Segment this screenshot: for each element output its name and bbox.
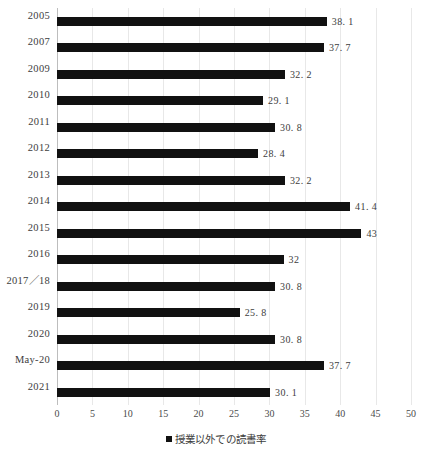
bar[interactable]	[57, 202, 350, 211]
bar-row[interactable]: 30. 1	[57, 379, 411, 405]
category-label: 2014	[0, 195, 50, 207]
bar-row[interactable]: 30. 8	[57, 273, 411, 299]
bar-row[interactable]: 37. 7	[57, 352, 411, 378]
x-tick-label: 0	[55, 408, 60, 420]
bar-row[interactable]: 28. 4	[57, 140, 411, 166]
bar-row[interactable]: 37. 7	[57, 34, 411, 60]
category-tick: 2017／18	[0, 273, 50, 299]
bar-value-label: 30. 8	[280, 118, 302, 137]
x-tick-label: 35	[300, 408, 310, 420]
category-tick: 2019	[0, 299, 50, 325]
legend-label: 授業以外での読書率	[175, 432, 267, 446]
category-label: 2015	[0, 222, 50, 234]
category-tick: 2015	[0, 220, 50, 246]
bar[interactable]	[57, 282, 275, 291]
category-label: 2011	[0, 116, 50, 128]
x-axis: 05101520253035404550	[57, 405, 411, 425]
bar-row[interactable]: 30. 8	[57, 326, 411, 352]
category-tick: 2014	[0, 193, 50, 219]
bar[interactable]	[57, 96, 263, 105]
bar-value-label: 28. 4	[263, 144, 285, 163]
bar-value-label: 38. 1	[332, 12, 354, 31]
category-tick: 2011	[0, 114, 50, 140]
category-tick: 2005	[0, 8, 50, 34]
bar-value-label: 37. 7	[329, 356, 351, 375]
bar-value-label: 32. 2	[290, 65, 312, 84]
bar-row[interactable]: 43	[57, 220, 411, 246]
bar[interactable]	[57, 335, 275, 344]
bar-value-label: 32	[289, 250, 300, 269]
category-tick: 2009	[0, 61, 50, 87]
category-label: 2012	[0, 142, 50, 154]
category-label: 2005	[0, 10, 50, 22]
bar-value-label: 32. 2	[290, 171, 312, 190]
category-label: 2009	[0, 63, 50, 75]
category-label: May-20	[0, 354, 50, 366]
bar-row[interactable]: 32. 2	[57, 61, 411, 87]
bar[interactable]	[57, 388, 270, 397]
bar-row[interactable]: 38. 1	[57, 8, 411, 34]
category-label: 2007	[0, 36, 50, 48]
bar[interactable]	[57, 123, 275, 132]
category-label: 2013	[0, 169, 50, 181]
category-label: 2019	[0, 301, 50, 313]
category-tick: 2012	[0, 140, 50, 166]
x-tick-label: 20	[194, 408, 204, 420]
category-tick: May-20	[0, 352, 50, 378]
x-tick-label: 50	[406, 408, 416, 420]
bar-row[interactable]: 30. 8	[57, 114, 411, 140]
chart-legend: 授業以外での読書率	[0, 432, 432, 446]
bar-value-label: 41. 4	[355, 197, 377, 216]
category-tick: 2016	[0, 246, 50, 272]
x-tick-label: 5	[90, 408, 95, 420]
plot-area: 38. 137. 732. 229. 130. 828. 432. 241. 4…	[57, 8, 411, 405]
bar-value-label: 30. 1	[275, 383, 297, 402]
bar-chart: 2005200720092010201120122013201420152016…	[0, 0, 432, 454]
legend-square-marker-icon	[166, 436, 172, 442]
category-label: 2016	[0, 248, 50, 260]
bar-row[interactable]: 29. 1	[57, 87, 411, 113]
category-label: 2017／18	[0, 275, 50, 287]
category-tick: 2010	[0, 87, 50, 113]
x-tick-label: 45	[371, 408, 381, 420]
x-tick-label: 25	[229, 408, 239, 420]
x-tick-label: 10	[123, 408, 133, 420]
category-label: 2020	[0, 328, 50, 340]
bar[interactable]	[57, 70, 285, 79]
x-tick-label: 40	[335, 408, 345, 420]
category-label: 2010	[0, 89, 50, 101]
bar-value-label: 25. 8	[245, 303, 267, 322]
bar-row[interactable]: 41. 4	[57, 193, 411, 219]
bar[interactable]	[57, 43, 324, 52]
bar-value-label: 29. 1	[268, 91, 290, 110]
bar-row[interactable]: 25. 8	[57, 299, 411, 325]
bar-row[interactable]: 32. 2	[57, 167, 411, 193]
category-tick: 2020	[0, 326, 50, 352]
bar[interactable]	[57, 176, 285, 185]
bar-value-label: 30. 8	[280, 277, 302, 296]
bar[interactable]	[57, 308, 240, 317]
bar[interactable]	[57, 255, 284, 264]
bar[interactable]	[57, 229, 361, 238]
bar[interactable]	[57, 149, 258, 158]
category-axis: 2005200720092010201120122013201420152016…	[0, 8, 50, 405]
bar-value-label: 43	[366, 224, 377, 243]
category-tick: 2013	[0, 167, 50, 193]
category-label: 2021	[0, 381, 50, 393]
bar-row[interactable]: 32	[57, 246, 411, 272]
bar-value-label: 37. 7	[329, 38, 351, 57]
bar-value-label: 30. 8	[280, 330, 302, 349]
bar[interactable]	[57, 361, 324, 370]
x-tick-label: 30	[264, 408, 274, 420]
gridline	[411, 8, 412, 405]
bar[interactable]	[57, 17, 327, 26]
x-tick-label: 15	[158, 408, 168, 420]
category-tick: 2007	[0, 34, 50, 60]
category-tick: 2021	[0, 379, 50, 405]
